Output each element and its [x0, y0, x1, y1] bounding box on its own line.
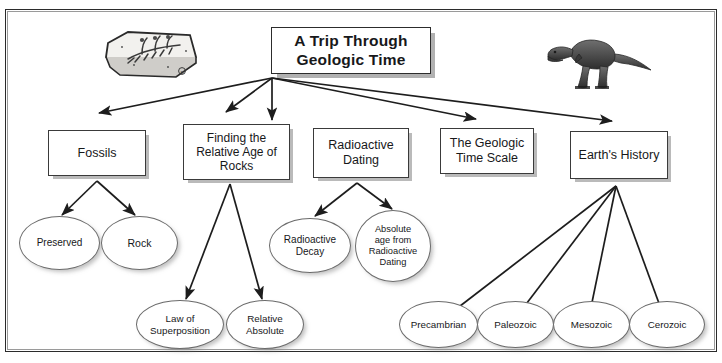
node-absage-line-1: Absolute: [369, 224, 418, 235]
node-absage-line-4: Dating: [369, 257, 418, 268]
diagram-canvas: R: [0, 0, 722, 363]
node-absolute-age-from-radioactive-dating[interactable]: Absolute age from Radioactive Dating: [355, 210, 431, 282]
node-preserved[interactable]: Preserved: [19, 216, 100, 270]
fossil-rock-icon: R: [98, 27, 202, 79]
node-absage-line-2: age from: [369, 235, 418, 246]
node-earthhist-label: Earth's History: [579, 148, 660, 163]
node-paleozoic-label: Paleozoic: [494, 319, 536, 331]
node-relative-absolute[interactable]: Relative Absolute: [226, 300, 304, 349]
node-mesozoic-label: Mesozoic: [571, 319, 612, 331]
node-relage-line-1: Finding the: [196, 131, 277, 145]
node-precambrian-label: Precambrian: [411, 319, 467, 331]
node-raddecay-line-2: Decay: [284, 246, 336, 258]
node-geotime-line-1: The Geologic: [450, 136, 524, 151]
node-title[interactable]: A Trip Through Geologic Time: [271, 27, 431, 74]
node-preserved-label: Preserved: [37, 237, 83, 249]
node-absage-line-3: Radioactive: [369, 246, 418, 257]
node-precambrian[interactable]: Precambrian: [399, 301, 478, 348]
node-raddating-line-1: Radioactive: [328, 138, 393, 153]
node-fossils[interactable]: Fossils: [48, 130, 146, 176]
node-geotime-line-2: Time Scale: [450, 151, 524, 166]
node-radioactive-dating[interactable]: Radioactive Dating: [313, 128, 409, 178]
node-radioactive-decay[interactable]: Radioactive Decay: [269, 218, 351, 273]
node-geologic-time-scale[interactable]: The Geologic Time Scale: [440, 128, 534, 174]
node-relage-line-3: Rocks: [196, 159, 277, 173]
node-relabs-line-2: Absolute: [246, 325, 284, 337]
node-raddating-line-2: Dating: [328, 153, 393, 168]
node-rock[interactable]: Rock: [101, 216, 178, 270]
node-lawsuper-line-2: Superposition: [150, 325, 210, 337]
node-cerozoic[interactable]: Cerozoic: [629, 301, 705, 348]
node-relabs-line-1: Relative: [246, 313, 284, 325]
node-fossils-label: Fossils: [78, 146, 117, 161]
dinosaur-icon: [545, 23, 657, 95]
node-mesozoic[interactable]: Mesozoic: [553, 301, 630, 348]
node-relage-line-2: Relative Age of: [196, 145, 277, 159]
node-cerozoic-label: Cerozoic: [648, 319, 687, 331]
node-title-line-2: Geologic Time: [294, 51, 407, 69]
node-title-line-1: A Trip Through: [294, 32, 407, 50]
node-lawsuper-line-1: Law of: [150, 313, 210, 325]
node-earths-history[interactable]: Earth's History: [570, 131, 668, 179]
node-raddecay-line-1: Radioactive: [284, 234, 336, 246]
node-rock-label: Rock: [128, 237, 152, 249]
node-law-of-superposition[interactable]: Law of Superposition: [136, 300, 224, 349]
node-relative-age-of-rocks[interactable]: Finding the Relative Age of Rocks: [183, 124, 290, 180]
node-paleozoic[interactable]: Paleozoic: [477, 301, 554, 348]
